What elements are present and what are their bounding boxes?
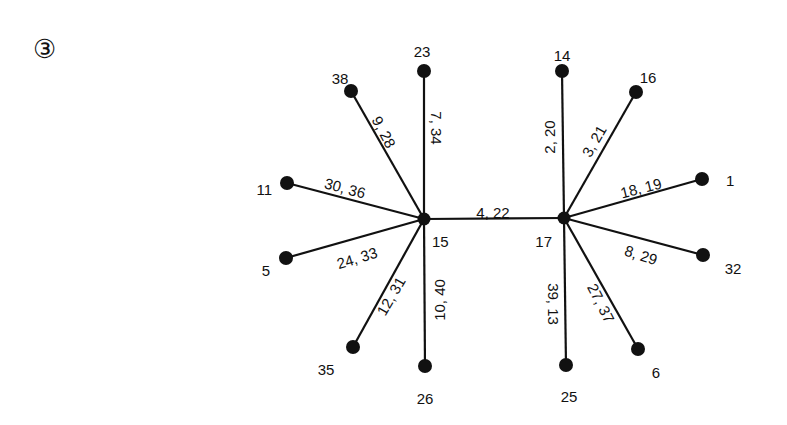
node-1 [695,172,709,186]
figure-number-marker: ③ [33,34,56,64]
node-5 [279,251,293,265]
edge-label: 8, 29 [623,242,660,268]
node-label: 23 [414,43,431,60]
node-25 [559,358,573,372]
edge-15-26 [424,219,425,366]
node-6 [631,342,645,356]
edge-label: 24, 33 [335,244,380,272]
node-label: 25 [561,388,578,405]
node-label: 11 [256,181,272,198]
node-label: 26 [417,390,434,407]
node-label: 35 [318,361,335,378]
edge-label: 39, 13 [545,283,562,325]
node-labels-group: 1517233811535261416132625 [256,43,741,407]
node-label: 17 [535,233,552,250]
node-label: 5 [262,262,270,279]
node-32 [696,248,710,262]
node-15 [418,213,431,226]
node-label: 1 [726,172,734,189]
node-label: 15 [432,233,449,250]
edge-label: 10, 40 [431,279,448,321]
edge-17-14 [562,71,564,218]
node-label: 32 [725,260,742,277]
edge-label: 4, 22 [476,204,509,221]
node-35 [346,340,360,354]
graph-diagram: ③ 4, 227, 349, 2830, 3624, 3312, 3110, 4… [0,0,787,425]
node-label: 14 [554,47,571,64]
node-11 [280,176,294,190]
node-label: 38 [332,70,349,87]
node-23 [417,64,431,78]
edge-17-25 [564,218,566,365]
node-26 [418,359,432,373]
edge-label: 3, 21 [578,122,609,159]
edge-labels-group: 4, 227, 349, 2830, 3624, 3312, 3110, 402… [323,111,664,325]
node-17 [558,212,571,225]
node-label: 16 [640,69,657,86]
edge-label: 12, 31 [373,274,409,319]
edge-label: 2, 20 [541,120,558,153]
edge-label: 7, 34 [428,111,445,144]
node-label: 6 [652,364,660,381]
node-16 [629,85,643,99]
node-14 [555,64,569,78]
